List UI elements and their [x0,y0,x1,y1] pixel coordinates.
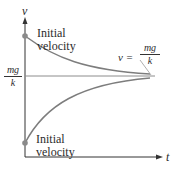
terminal-velocity-equation: mg k [140,43,160,66]
lower-initial-point [22,140,28,146]
lower-initial-velocity-label: Initial velocity [36,133,75,159]
terminal-velocity-axis-label: mg k [4,65,22,88]
t-axis-arrow-icon [156,155,163,160]
upper-label-line-2: velocity [37,40,76,53]
t-axis-label: t [166,151,169,163]
equation-lhs: v = [118,52,133,63]
upper-initial-velocity-label: Initial velocity [37,27,76,53]
fraction-denominator: k [4,78,22,88]
lower-label-line-2: velocity [36,146,75,159]
equation-numerator: mg [140,43,160,53]
upper-initial-point [22,33,28,39]
v-axis-arrow-icon [23,17,28,24]
velocity-graph [0,0,176,170]
v-axis-label: v [22,5,27,17]
equation-denominator: k [140,56,160,66]
fraction-numerator: mg [4,65,22,75]
